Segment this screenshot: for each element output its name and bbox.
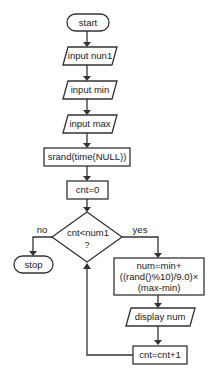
input-max-label: input max bbox=[69, 118, 110, 129]
compute-label-line3: (max-min) bbox=[138, 282, 181, 293]
display-num-label: display num bbox=[135, 311, 186, 322]
stop-label: stop bbox=[25, 259, 43, 270]
cnt-init-label: cnt=0 bbox=[76, 184, 100, 195]
srand-label: srand(time(NULL)) bbox=[48, 151, 127, 162]
decision-label-line2: ? bbox=[84, 239, 89, 250]
start-terminal: start bbox=[67, 14, 109, 31]
increment-label: cnt=cnt+1 bbox=[139, 349, 181, 360]
srand-process: srand(time(NULL)) bbox=[44, 148, 130, 166]
display-num-io: display num bbox=[126, 308, 195, 326]
cnt-init-process: cnt=0 bbox=[67, 181, 108, 199]
input-num1-label: input nun1 bbox=[68, 50, 112, 61]
input-min-io: input min bbox=[63, 81, 117, 99]
no-edge-label: no bbox=[37, 224, 48, 235]
decision-diamond: cnt<num1 ? bbox=[52, 212, 122, 262]
decision-label-line1: cnt<num1 bbox=[67, 227, 109, 238]
compute-label-line2: ((rand()%10)/9.0)× bbox=[120, 271, 198, 282]
flowchart-canvas: start input nun1 input min input max sra… bbox=[0, 0, 219, 388]
stop-terminal: stop bbox=[14, 256, 53, 273]
input-min-label: input min bbox=[71, 84, 110, 95]
compute-label-line1: num=min+ bbox=[137, 260, 182, 271]
start-label: start bbox=[79, 17, 98, 28]
input-max-io: input max bbox=[63, 115, 117, 133]
increment-process: cnt=cnt+1 bbox=[133, 346, 187, 364]
yes-edge-label: yes bbox=[133, 224, 148, 235]
compute-num-process: num=min+ ((rand()%10)/9.0)× (max-min) bbox=[114, 258, 204, 295]
input-num1-io: input nun1 bbox=[63, 47, 117, 65]
